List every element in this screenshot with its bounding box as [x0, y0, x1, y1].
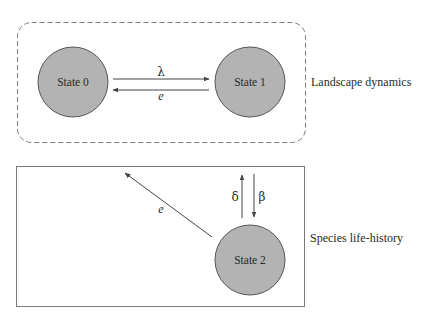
state-transition-diagram: State 0 State 1 λ e Landscape dynamics S… — [0, 0, 422, 319]
state-1-label: State 1 — [234, 76, 266, 88]
e-landscape-label: e — [158, 89, 164, 103]
state-2-node: State 2 — [215, 225, 285, 295]
state-0-label: State 0 — [57, 76, 89, 88]
state-2-label: State 2 — [234, 254, 266, 266]
beta-label: β — [259, 190, 266, 204]
landscape-dynamics-label: Landscape dynamics — [311, 75, 412, 89]
state-0-node: State 0 — [38, 47, 108, 117]
state-1-node: State 1 — [215, 47, 285, 117]
e-lifehistory-arrow — [125, 173, 212, 237]
e-lifehistory-label: e — [158, 202, 164, 216]
lambda-label: λ — [157, 65, 165, 79]
delta-label: δ — [231, 190, 238, 204]
species-life-history-label: Species life-history — [310, 231, 403, 245]
